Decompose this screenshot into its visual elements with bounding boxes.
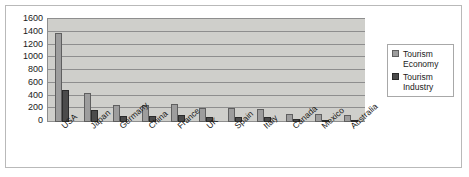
- y-axis: 16001400120010008006004002000: [6, 18, 43, 122]
- x-axis: USAJapanGermanyChinaFranceUKSpainItalyCa…: [48, 124, 365, 168]
- chart-frame: 16001400120010008006004002000 USAJapanGe…: [5, 5, 462, 168]
- legend-label-line1: Tourism: [403, 72, 433, 82]
- y-axis-tick-label: 0: [6, 116, 43, 125]
- bar-group: [221, 18, 250, 122]
- bar-group: [279, 18, 308, 122]
- y-axis-tick-label: 200: [6, 103, 43, 112]
- bar-group: [163, 18, 192, 122]
- bar-group: [77, 18, 106, 122]
- y-axis-tick-label: 800: [6, 65, 43, 74]
- legend-label: TourismIndustry: [403, 72, 433, 92]
- bar-tourism-economy: [55, 33, 62, 122]
- y-axis-tick-label: 600: [6, 77, 43, 86]
- chart-legend: TourismEconomyTourismIndustry: [387, 44, 454, 97]
- legend-label-line2: Economy: [403, 59, 438, 69]
- y-axis-tick-label: 1400: [6, 26, 43, 35]
- legend-entry: TourismEconomy: [392, 49, 450, 69]
- y-axis-tick-label: 400: [6, 90, 43, 99]
- y-axis-tick-label: 1200: [6, 39, 43, 48]
- bar-group: [106, 18, 135, 122]
- legend-entry: TourismIndustry: [392, 72, 450, 92]
- bar-group: [250, 18, 279, 122]
- legend-label: TourismEconomy: [403, 49, 438, 69]
- bar-group: [48, 18, 77, 122]
- bars-layer: [48, 18, 365, 122]
- bar-tourism-economy: [199, 108, 206, 122]
- legend-label-line2: Industry: [403, 82, 433, 92]
- y-axis-tick-label: 1000: [6, 52, 43, 61]
- y-axis-tick-label: 1600: [6, 14, 43, 23]
- legend-swatch-economy-icon: [392, 50, 399, 57]
- bar-tourism-economy: [84, 93, 91, 122]
- legend-label-line1: Tourism: [403, 49, 438, 59]
- bar-tourism-economy: [113, 105, 120, 122]
- legend-swatch-industry-icon: [392, 73, 399, 80]
- bar-tourism-economy: [171, 104, 178, 122]
